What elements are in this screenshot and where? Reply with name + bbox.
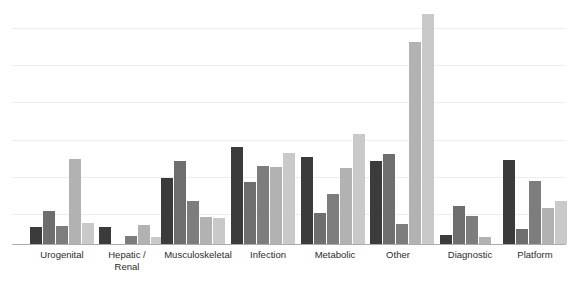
bar bbox=[174, 161, 186, 244]
bar bbox=[82, 223, 94, 244]
bar bbox=[138, 225, 150, 244]
bar bbox=[270, 167, 282, 244]
bar bbox=[213, 218, 225, 244]
bar bbox=[383, 154, 395, 244]
bar bbox=[516, 229, 528, 244]
bar bbox=[422, 14, 434, 244]
bar bbox=[453, 206, 465, 244]
bar bbox=[99, 227, 111, 244]
bar bbox=[503, 160, 515, 244]
category-labels: UrogenitalHepatic / RenalMusculoskeletal… bbox=[0, 246, 578, 285]
bar bbox=[529, 181, 541, 244]
category-label: Platform bbox=[495, 249, 575, 261]
category-label: Urogenital bbox=[22, 249, 102, 261]
plot-area bbox=[0, 0, 578, 245]
bar bbox=[257, 166, 269, 244]
bar bbox=[340, 168, 352, 244]
bar bbox=[200, 217, 212, 244]
bar bbox=[244, 182, 256, 244]
bars-layer bbox=[0, 0, 578, 244]
bar bbox=[370, 161, 382, 244]
bar bbox=[231, 147, 243, 244]
bar bbox=[555, 201, 567, 244]
bar bbox=[542, 208, 554, 244]
bar bbox=[187, 201, 199, 244]
bar bbox=[301, 157, 313, 244]
bar bbox=[466, 216, 478, 244]
bar bbox=[353, 134, 365, 244]
bar bbox=[409, 42, 421, 245]
bar-chart: UrogenitalHepatic / RenalMusculoskeletal… bbox=[0, 0, 578, 285]
bar bbox=[440, 235, 452, 244]
bar bbox=[314, 213, 326, 244]
x-axis-line bbox=[12, 244, 566, 245]
bar bbox=[125, 236, 137, 244]
bar bbox=[479, 237, 491, 244]
bar bbox=[30, 227, 42, 244]
bar bbox=[69, 159, 81, 244]
bar bbox=[43, 211, 55, 244]
bar bbox=[56, 226, 68, 244]
category-label: Other bbox=[363, 249, 433, 261]
bar bbox=[161, 178, 173, 244]
bar bbox=[327, 194, 339, 245]
bar bbox=[396, 224, 408, 244]
bar bbox=[283, 153, 295, 244]
